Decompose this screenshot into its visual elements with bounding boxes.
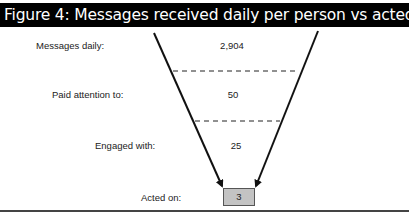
stage-label-engaged-with: Engaged with: xyxy=(95,140,155,151)
bottom-rule xyxy=(0,210,409,212)
stage-label-acted-on: Acted on: xyxy=(141,192,181,203)
stage-value-messages-daily: 2,904 xyxy=(212,40,252,51)
stage-value-engaged-with: 25 xyxy=(216,140,256,151)
stage-label-paid-attention: Paid attention to: xyxy=(52,89,123,100)
acted-on-box: 3 xyxy=(223,188,255,206)
funnel-diagram xyxy=(0,0,412,215)
stage-value-paid-attention: 50 xyxy=(213,89,253,100)
stage-label-messages-daily: Messages daily: xyxy=(36,40,104,51)
funnel-left-arrow xyxy=(154,33,222,186)
funnel-right-arrow xyxy=(256,31,318,186)
